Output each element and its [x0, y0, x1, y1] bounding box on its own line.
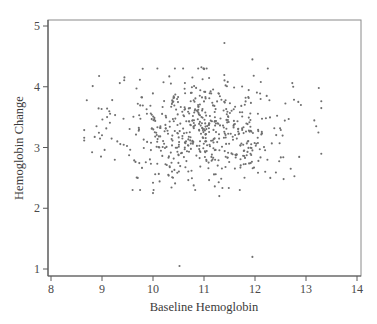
data-point	[178, 170, 180, 172]
data-point	[186, 132, 188, 134]
data-point	[168, 155, 170, 157]
data-point	[226, 85, 228, 87]
data-point	[171, 103, 173, 105]
x-tick-label: 8	[48, 282, 54, 296]
data-point	[188, 151, 190, 153]
data-point	[159, 180, 161, 182]
data-point	[238, 132, 240, 134]
data-point	[188, 136, 190, 138]
data-point	[152, 192, 154, 194]
data-point	[169, 126, 171, 128]
data-point	[226, 113, 228, 115]
data-point	[193, 122, 195, 124]
data-point	[263, 146, 265, 148]
data-point	[178, 136, 180, 138]
data-point	[197, 109, 199, 111]
data-point	[264, 149, 266, 151]
data-point	[157, 138, 159, 140]
data-point	[111, 99, 113, 101]
x-tick-label: 13	[300, 282, 312, 296]
data-point	[268, 99, 270, 101]
data-point	[243, 163, 245, 165]
data-point	[179, 130, 181, 132]
data-point	[146, 113, 148, 115]
data-point	[179, 123, 181, 125]
data-point	[170, 162, 172, 164]
data-point	[91, 151, 93, 153]
data-point	[249, 131, 251, 133]
data-point	[300, 104, 302, 106]
data-point	[152, 182, 154, 184]
data-point	[194, 97, 196, 99]
data-point	[245, 163, 247, 165]
data-point	[183, 156, 185, 158]
data-point	[141, 96, 143, 98]
data-point	[177, 101, 179, 103]
data-point	[168, 75, 170, 77]
data-point	[249, 126, 251, 128]
data-point	[243, 177, 245, 179]
data-point	[207, 167, 209, 169]
data-point	[249, 112, 251, 114]
data-point	[248, 162, 250, 164]
data-point	[86, 99, 88, 101]
data-point	[244, 104, 246, 106]
data-point	[223, 126, 225, 128]
data-point	[251, 161, 253, 163]
data-point	[160, 150, 162, 152]
data-point	[215, 120, 217, 122]
data-point	[156, 126, 158, 128]
data-point	[161, 155, 163, 157]
data-point	[173, 104, 175, 106]
data-point	[151, 118, 153, 120]
data-point	[137, 177, 139, 179]
data-point	[205, 97, 207, 99]
data-point	[172, 118, 174, 120]
data-point	[187, 144, 189, 146]
data-point	[146, 141, 148, 143]
data-point	[92, 85, 94, 87]
data-point	[208, 179, 210, 181]
data-point	[266, 95, 268, 97]
data-point	[202, 131, 204, 133]
data-point	[178, 144, 180, 146]
data-point	[242, 144, 244, 146]
data-point	[116, 140, 118, 142]
data-point	[149, 158, 151, 160]
data-point	[202, 147, 204, 149]
data-point	[164, 163, 166, 165]
data-point	[132, 116, 134, 118]
data-point	[189, 139, 191, 141]
data-point	[175, 109, 177, 111]
data-point	[197, 67, 199, 69]
data-point	[191, 177, 193, 179]
data-point	[151, 127, 153, 129]
data-point	[259, 148, 261, 150]
data-point	[259, 156, 261, 158]
data-point	[189, 107, 191, 109]
data-point	[174, 93, 176, 95]
data-point	[199, 95, 201, 97]
data-point	[210, 90, 212, 92]
data-point	[214, 149, 216, 151]
data-point	[208, 162, 210, 164]
data-point	[114, 159, 116, 161]
data-point	[185, 160, 187, 162]
data-point	[178, 141, 180, 143]
data-point	[208, 77, 210, 79]
data-point	[245, 100, 247, 102]
data-point	[150, 112, 152, 114]
data-point	[196, 145, 198, 147]
data-point	[278, 160, 280, 162]
data-point	[166, 130, 168, 132]
data-point	[250, 143, 252, 145]
data-point	[275, 134, 277, 136]
data-point	[253, 75, 255, 77]
data-point	[203, 100, 205, 102]
data-point	[197, 118, 199, 120]
data-point	[158, 173, 160, 175]
data-point	[161, 113, 163, 115]
data-point	[137, 103, 139, 105]
data-point	[224, 166, 226, 168]
data-point	[279, 142, 281, 144]
